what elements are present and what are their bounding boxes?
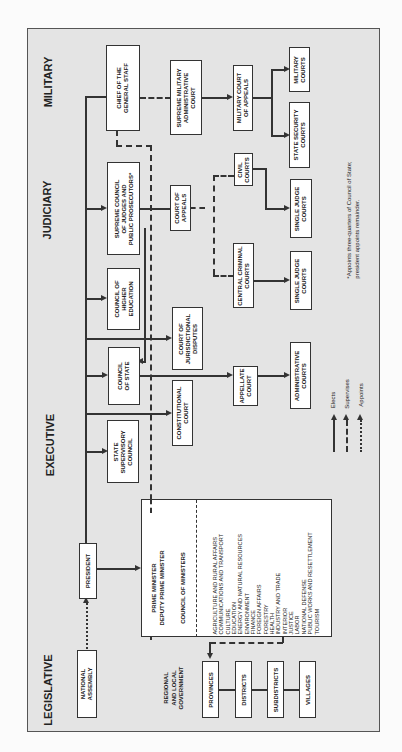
node-civil-courts[interactable]: CIVIL COURTS <box>234 153 253 186</box>
line-to-supreme-council <box>85 208 102 210</box>
dashed-interior-to-provinces <box>210 642 283 644</box>
section-military: MILITARY <box>42 57 54 108</box>
prime-minister-label: PRIME MINISTER DEPUTY PRIME MINISTER <box>151 550 166 625</box>
node-supreme-council-judges[interactable]: SUPREME COUNCIL OF JUDGES AND PUBLIC PRO… <box>107 162 140 255</box>
president-trunk-line <box>85 97 87 544</box>
node-state-security-courts[interactable]: STATE SECURITY COURTS <box>289 102 310 168</box>
node-council-higher-education[interactable]: COUNCIL OF HIGHER EDUCATION <box>107 268 140 330</box>
dashed-chief-right <box>116 145 152 147</box>
node-chief-general-staff[interactable]: CHIEF OF THE GENERAL STAFF <box>106 45 140 131</box>
line-to-jurisdictional <box>85 338 167 340</box>
legend-elects-line <box>333 420 335 452</box>
line-criminal-to-single <box>253 280 285 282</box>
ministries-list: AGRICULTURE AND RURAL AFFAIRS COMMUNICAT… <box>212 501 320 636</box>
legend-appoints-label: Appoints <box>358 383 364 406</box>
line-to-state-supervisory <box>85 451 102 453</box>
node-council-of-state[interactable]: COUNCIL OF STATE <box>108 347 140 405</box>
arrow-up-icon <box>331 414 337 420</box>
appoints-dotted-line <box>86 603 88 649</box>
line-supreme-to-council-state <box>144 228 146 362</box>
ministry-item: TOURISM <box>314 501 320 634</box>
node-national-assembly[interactable]: NATIONAL ASSEMBLY <box>77 650 97 718</box>
node-administrative-courts[interactable]: ADMINISTRATIVE COURTS <box>290 342 311 409</box>
arrow-up-icon <box>357 414 363 420</box>
line-supreme-to-appeals <box>140 208 170 210</box>
line-to-chief <box>85 96 107 98</box>
node-provinces[interactable]: PROVINCES <box>202 661 219 718</box>
line-state-to-appellate <box>140 375 228 377</box>
line-to-council-of-state <box>85 375 102 377</box>
section-judiciary: JUDICIARY <box>41 181 53 240</box>
legend-supervises-label: Supervises <box>344 379 350 409</box>
arrow-up-icon <box>343 414 349 420</box>
node-districts[interactable]: DISTRICTS <box>235 661 252 718</box>
line-president-to-ministers <box>96 568 136 570</box>
node-central-criminal-courts[interactable]: CENTRAL CRIMINAL COURTS <box>233 243 254 308</box>
node-president[interactable]: PRESIDENT <box>79 543 97 599</box>
node-state-supervisory-council[interactable]: STATE SUPERVISORY COUNCIL <box>107 420 139 483</box>
node-subdistricts[interactable]: SUBDISTRICTS <box>267 661 284 718</box>
footnote: *Appoints three-quarters of Council of S… <box>345 161 361 278</box>
line-to-higher-education <box>85 298 102 300</box>
line-to-constitutional <box>85 413 167 415</box>
dashed-chief-to-sma-court <box>140 97 171 99</box>
node-military-court-of-appeals[interactable]: MILITARY COURT OF APPEALS <box>233 65 253 131</box>
ministers-divider <box>196 500 197 637</box>
node-supreme-military-admin-court[interactable]: SUPREME MILITARY ADMINISTRATIVE COURT <box>170 60 202 135</box>
node-council-of-ministers[interactable]: PRIME MINISTER DEPUTY PRIME MINISTER COU… <box>141 499 332 637</box>
legend-supervises-line <box>346 420 348 452</box>
node-villages[interactable]: VILLAGES <box>299 661 316 718</box>
node-military-courts[interactable]: MILITARY COURTS <box>289 47 310 92</box>
section-legislative: LEGISLATIVE <box>42 654 54 725</box>
node-constitutional-court[interactable]: CONSTITUTIONAL COURT <box>172 380 193 446</box>
node-appellate-court[interactable]: APPELLATE COURT <box>233 366 258 406</box>
legend-elects-label: Elects <box>330 392 336 408</box>
line-sma-to-mca <box>202 97 228 99</box>
dashed-chief-down <box>116 130 118 146</box>
legend-appoints-line <box>360 420 362 452</box>
node-single-judge-courts-civil[interactable]: SINGLE JUDGE COURTS <box>290 179 312 238</box>
line-civil-to-single <box>265 208 285 210</box>
line-appellate-to-admin <box>258 375 285 377</box>
dashed-appeals-branch <box>213 175 215 275</box>
line-mca-branch <box>271 69 273 137</box>
line-regional-chain <box>218 689 299 691</box>
council-of-ministers-title: COUNCIL OF MINISTERS <box>180 552 188 624</box>
arrow-down-icon <box>207 653 213 659</box>
regional-government-label: REGIONAL AND LOCAL GOVERNMENT <box>163 666 186 709</box>
node-single-judge-courts-criminal[interactable]: SINGLE JUDGE COURTS <box>290 251 312 310</box>
node-court-of-appeals[interactable]: COURT OF APPEALS <box>170 185 191 231</box>
dashed-appeals-out <box>190 207 205 209</box>
section-executive: EXECUTIVE <box>44 414 56 476</box>
node-court-jurisdictional-disputes[interactable]: COURT OF JURISDICTIONAL DISPUTES <box>172 307 203 370</box>
